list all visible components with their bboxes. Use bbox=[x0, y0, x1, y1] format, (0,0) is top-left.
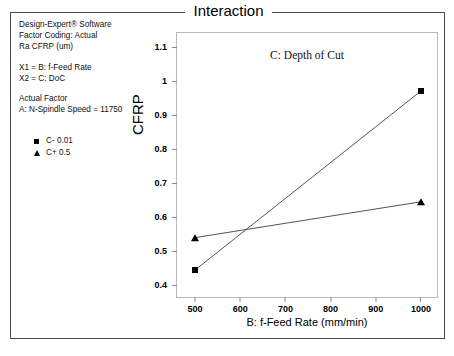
x-axis-tick-label: 600 bbox=[233, 304, 248, 314]
x-axis-tick: 1000 bbox=[411, 297, 431, 314]
data-point-square bbox=[418, 88, 424, 94]
legend-item-c-plus: C+ 0.5 bbox=[33, 147, 73, 159]
x-axis-tick-mark bbox=[375, 297, 376, 302]
info-software: Design-Expert® Software bbox=[19, 19, 169, 30]
x-axis-tick-label: 900 bbox=[368, 304, 383, 314]
y-axis-tick: 0.5 bbox=[154, 246, 177, 256]
chart-title-text: Interaction bbox=[185, 2, 271, 19]
info-block-terms: X1 = B: f-Feed Rate X2 = C: DoC bbox=[19, 62, 169, 84]
chart-legend: C- 0.01 C+ 0.5 bbox=[33, 135, 73, 158]
y-axis-title: CFRP bbox=[129, 94, 146, 135]
figure-frame: Design-Expert® Software Factor Coding: A… bbox=[10, 12, 445, 339]
y-axis-tick-mark bbox=[172, 81, 177, 82]
y-axis-tick: 0.7 bbox=[154, 178, 177, 188]
x-axis-tick-label: 500 bbox=[188, 304, 203, 314]
data-point-square bbox=[192, 267, 198, 273]
legend-label-c-plus: C+ 0.5 bbox=[46, 147, 70, 159]
legend-item-c-minus: C- 0.01 bbox=[33, 135, 73, 147]
x-axis-tick-mark bbox=[285, 297, 286, 302]
series-lines bbox=[177, 33, 439, 299]
series-line bbox=[195, 91, 421, 270]
y-axis-tick: 0.6 bbox=[154, 212, 177, 222]
x-axis-tick-mark bbox=[240, 297, 241, 302]
x-axis-tick-mark bbox=[330, 297, 331, 302]
y-axis-tick-mark bbox=[172, 115, 177, 116]
y-axis-tick-mark bbox=[172, 217, 177, 218]
x-axis-tick-label: 1000 bbox=[411, 304, 431, 314]
x-axis-tick: 700 bbox=[278, 297, 293, 314]
x-axis-tick: 500 bbox=[188, 297, 203, 314]
y-axis-tick-mark bbox=[172, 149, 177, 150]
y-axis-tick-mark bbox=[172, 47, 177, 48]
data-point-triangle bbox=[417, 198, 425, 205]
info-factor-coding: Factor Coding: Actual bbox=[19, 30, 169, 41]
y-axis-tick-label: 0.8 bbox=[154, 144, 167, 154]
y-axis-tick-mark bbox=[172, 251, 177, 252]
data-point-triangle bbox=[191, 234, 199, 241]
info-x2: X2 = C: DoC bbox=[19, 73, 169, 84]
chart-title: Interaction bbox=[11, 2, 446, 19]
info-response: Ra CFRP (um) bbox=[19, 41, 169, 52]
y-axis-tick-label: 0.4 bbox=[154, 280, 167, 290]
x-axis-tick-label: 800 bbox=[323, 304, 338, 314]
y-axis-tick-label: 0.9 bbox=[154, 110, 167, 120]
info-x1: X1 = B: f-Feed Rate bbox=[19, 62, 169, 73]
info-block-actual-factor: Actual Factor A: N-Spindle Speed = 11750 bbox=[19, 93, 169, 115]
y-axis-tick-label: 1 bbox=[162, 76, 167, 86]
y-axis-tick-label: 1.1 bbox=[154, 42, 167, 52]
info-actual-factor-heading: Actual Factor bbox=[19, 93, 169, 104]
y-axis-tick-label: 0.6 bbox=[154, 212, 167, 222]
square-marker-icon bbox=[33, 135, 42, 147]
info-block-software: Design-Expert® Software Factor Coding: A… bbox=[19, 19, 169, 53]
x-axis-tick: 600 bbox=[233, 297, 248, 314]
info-panel: Design-Expert® Software Factor Coding: A… bbox=[19, 19, 169, 124]
plot-area: C: Depth of Cut 0.40.50.60.70.80.911.150… bbox=[176, 32, 438, 298]
y-axis-tick-mark bbox=[172, 285, 177, 286]
x-axis-tick-label: 700 bbox=[278, 304, 293, 314]
y-axis-tick: 1.1 bbox=[154, 42, 177, 52]
y-axis-tick-label: 0.5 bbox=[154, 246, 167, 256]
series-line bbox=[195, 202, 421, 238]
y-axis-tick: 0.4 bbox=[154, 280, 177, 290]
legend-label-c-minus: C- 0.01 bbox=[46, 135, 73, 147]
triangle-marker-icon bbox=[33, 147, 42, 159]
x-axis-title: B: f-Feed Rate (mm/min) bbox=[176, 316, 438, 328]
x-axis-tick-mark bbox=[420, 297, 421, 302]
x-axis-tick-mark bbox=[195, 297, 196, 302]
y-axis-tick: 0.8 bbox=[154, 144, 177, 154]
data-layer bbox=[177, 33, 437, 297]
y-axis-tick-label: 0.7 bbox=[154, 178, 167, 188]
x-axis-tick: 900 bbox=[368, 297, 383, 314]
y-axis-tick-mark bbox=[172, 183, 177, 184]
y-axis-tick: 0.9 bbox=[154, 110, 177, 120]
info-actual-factor-value: A: N-Spindle Speed = 11750 bbox=[19, 104, 169, 115]
y-axis-tick: 1 bbox=[162, 76, 177, 86]
x-axis-tick: 800 bbox=[323, 297, 338, 314]
